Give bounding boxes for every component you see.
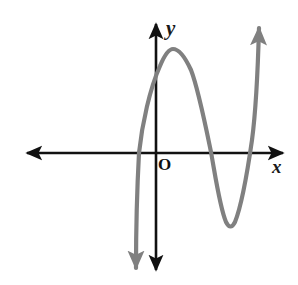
- graph-canvas: [0, 0, 298, 285]
- origin-label: O: [158, 156, 171, 173]
- coordinate-plane-figure: y x O: [0, 0, 298, 285]
- polynomial-curve: [136, 28, 259, 268]
- x-axis-label: x: [272, 157, 282, 176]
- y-axis-label: y: [166, 18, 175, 39]
